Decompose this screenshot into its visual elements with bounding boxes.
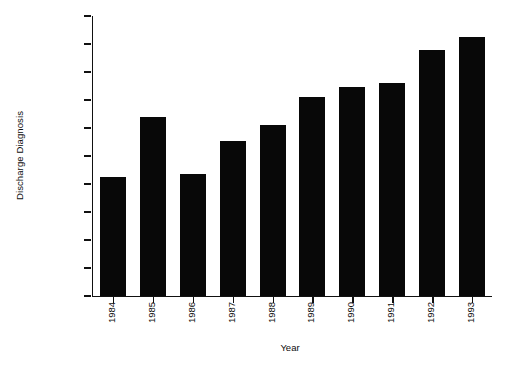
y-axis-tick-mark [84,71,91,72]
x-axis-tick-label-text: 1988 [266,309,277,323]
y-axis-tick-mark [84,15,91,16]
x-axis-tick-label-text: 1993 [465,309,476,323]
x-axis-tick-label-text: 1985 [146,309,157,323]
y-axis-tick-mark [84,127,91,128]
bar-chart: Discharge Diagnosis 01002003004005006007… [0,0,520,368]
x-axis-tick-label: 1989 [305,309,319,345]
bar [379,83,405,296]
bar [339,87,365,296]
bar [299,97,325,296]
x-axis-tick-label: 1987 [226,309,240,345]
y-axis-tick-mark [84,155,91,156]
y-axis-tick-mark [84,99,91,100]
y-axis-title-text: Discharge Diagnosis [15,110,26,199]
bar [140,117,166,296]
x-axis-tick-label-text: 1991 [385,309,396,323]
x-axis-tick-label-text: 1990 [345,309,356,323]
x-axis-tick-label-text: 1992 [425,309,436,323]
x-axis-tick-label: 1991 [385,309,399,345]
x-axis-tick-label-text: 1984 [106,309,117,323]
y-axis-tick-mark [84,295,91,296]
x-axis-tick-label-text: 1989 [305,309,316,323]
y-axis-tick-mark [84,43,91,44]
bars-layer [93,16,492,296]
x-axis-tick-label: 1985 [146,309,160,345]
bar [260,125,286,296]
x-axis-tick-label: 1984 [106,309,120,345]
y-axis-tick-mark [84,239,91,240]
bar [220,141,246,296]
y-axis-tick-mark [84,211,91,212]
y-axis-tick-mark [84,267,91,268]
x-axis-tick-label-text: 1986 [186,309,197,323]
y-axis-title: Discharge Diagnosis [0,0,40,310]
y-axis-tick-mark [84,183,91,184]
x-axis-tick-label: 1986 [186,309,200,345]
x-axis-tick-label: 1993 [465,309,479,345]
x-axis-title: Year [88,342,492,353]
bar [459,37,485,296]
bar [180,174,206,296]
bar [100,177,126,296]
bar [419,50,445,296]
x-axis-tick-label-text: 1987 [226,309,237,323]
x-axis-tick-label: 1990 [345,309,359,345]
x-axis-tick-label: 1992 [425,309,439,345]
x-axis-tick-label: 1988 [266,309,280,345]
